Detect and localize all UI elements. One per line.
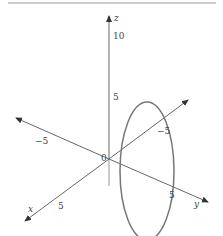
y-tick-neg5: −5 bbox=[35, 136, 49, 146]
z-tick-10: 10 bbox=[113, 31, 125, 41]
ellipse-curve bbox=[120, 102, 174, 236]
y-tick-5: 5 bbox=[169, 190, 175, 200]
x-tick-neg5: −5 bbox=[157, 126, 171, 136]
y-axis bbox=[16, 118, 208, 202]
z-axis-label: z bbox=[113, 13, 119, 23]
figure-3d-plot: z 10 5 0 −5 5 y −5 5 x bbox=[0, 0, 223, 236]
y-axis-label: y bbox=[193, 199, 200, 209]
x-axis-label: x bbox=[28, 204, 33, 214]
origin-label: 0 bbox=[101, 153, 107, 163]
z-tick-5: 5 bbox=[113, 92, 119, 102]
x-tick-5: 5 bbox=[58, 201, 64, 211]
